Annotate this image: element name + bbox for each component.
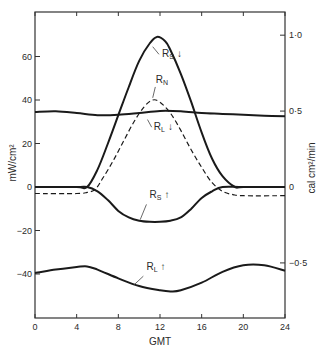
plot-frame	[35, 12, 285, 318]
y-tick-label: −20	[17, 226, 32, 236]
right-y-tick-label: 0·5	[289, 106, 302, 116]
curve-annotations: RS↓RNRL↓RS↑RL↑	[134, 47, 182, 285]
leader-line	[134, 276, 143, 285]
annotation-label: RN	[153, 74, 168, 98]
x-tick-label: 12	[155, 322, 165, 332]
curve-label-text: RL↓	[154, 121, 173, 133]
series-line-3	[35, 187, 285, 222]
y-tick-label: 40	[22, 95, 32, 105]
y-axis-title-right: cal cm²/min	[306, 142, 317, 193]
axes: 048121620246040200−20−401·00·50−0·5	[17, 12, 308, 332]
curve-label-text: RN	[156, 74, 168, 86]
curve-label-text: RS↓	[162, 48, 182, 60]
y-tick-label: 60	[22, 52, 32, 62]
annotation-label: RL↑	[134, 261, 166, 285]
leader-line	[148, 120, 152, 128]
x-tick-label: 4	[74, 322, 79, 332]
right-y-tick-label: −0·5	[289, 258, 307, 268]
annotation-label: RL↓	[148, 120, 173, 134]
leader-line	[153, 87, 156, 98]
annotation-label: RS↓	[153, 47, 182, 60]
x-tick-label: 24	[280, 322, 290, 332]
leader-line	[140, 204, 146, 219]
x-tick-label: 8	[116, 322, 121, 332]
curve-label-text: RS↑	[150, 189, 170, 201]
x-tick-label: 20	[238, 322, 248, 332]
series-line-2	[35, 111, 285, 117]
y-tick-label: −40	[17, 269, 32, 279]
x-tick-label: 0	[32, 322, 37, 332]
x-axis-title: GMT	[149, 336, 171, 347]
y-tick-label: 20	[22, 139, 32, 149]
radiation-chart: 048121620246040200−20−401·00·50−0·5 RS↓R…	[0, 0, 326, 354]
y-tick-label: 0	[27, 182, 32, 192]
curve-label-text: RL↑	[146, 261, 165, 273]
annotation-label: RS↑	[140, 189, 169, 220]
right-y-tick-label: 1·0	[289, 30, 302, 40]
leader-line	[153, 47, 159, 55]
y-axis-title-left: mW/cm²	[7, 144, 18, 182]
right-y-tick-label: 0	[289, 182, 294, 192]
x-tick-label: 16	[197, 322, 207, 332]
